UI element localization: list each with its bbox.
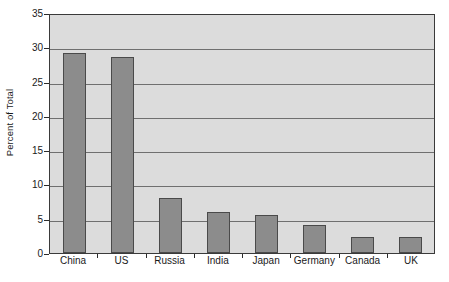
bar-slot <box>242 15 290 253</box>
x-axis-tick-mark <box>194 254 195 258</box>
y-axis-title: Percent of Total <box>0 0 20 245</box>
x-axis-tick-label: Russia <box>146 256 194 266</box>
bar-russia <box>159 198 182 253</box>
bar-japan <box>255 215 278 253</box>
y-axis-title-text: Percent of Total <box>5 89 16 156</box>
y-axis-tick-label: 15 <box>32 146 43 156</box>
x-axis-tick-mark <box>242 254 243 258</box>
y-axis-tick-mark <box>44 117 49 118</box>
x-axis-tick-label: India <box>194 256 242 266</box>
y-axis-tick-label: 25 <box>32 78 43 88</box>
x-axis-tick-mark <box>97 254 98 258</box>
bar-slot <box>386 15 434 253</box>
y-axis-tick-label: 20 <box>32 112 43 122</box>
bar-slot <box>338 15 386 253</box>
plot-area <box>49 14 435 254</box>
x-axis-tick-mark <box>290 254 291 258</box>
x-axis-tick-label: Germany <box>290 256 338 266</box>
bar-india <box>207 212 230 253</box>
x-axis-tick-mark <box>387 254 388 258</box>
x-axis-tick-mark <box>146 254 147 258</box>
bars-layer <box>50 15 434 253</box>
y-axis-tick-label: 0 <box>37 249 43 259</box>
y-axis-tick-mark <box>44 185 49 186</box>
y-axis-tick-label: 35 <box>32 9 43 19</box>
bar-canada <box>351 237 374 253</box>
bar-us <box>111 57 134 253</box>
x-axis-tick-label: China <box>49 256 97 266</box>
bar-germany <box>303 225 326 253</box>
x-axis-tick-label: Japan <box>242 256 290 266</box>
x-axis-tick-mark <box>339 254 340 258</box>
y-axis-tick-label: 10 <box>32 180 43 190</box>
y-axis-tick-mark <box>44 14 49 15</box>
bar-slot <box>194 15 242 253</box>
y-axis-tick-mark <box>44 254 49 255</box>
x-axis-tick-label: UK <box>387 256 435 266</box>
y-axis-tick-mark <box>44 48 49 49</box>
bar-chart-figure: Percent of Total 05101520253035 ChinaUSR… <box>0 0 449 282</box>
y-axis-tick-mark <box>44 151 49 152</box>
bar-uk <box>399 237 422 253</box>
y-axis-tick-mark <box>44 83 49 84</box>
y-axis-tick-label: 5 <box>37 215 43 225</box>
y-axis-tick-labels: 05101520253035 <box>20 14 43 254</box>
bar-slot <box>290 15 338 253</box>
y-axis-tick-mark <box>44 220 49 221</box>
bar-slot <box>50 15 98 253</box>
y-axis-tick-label: 30 <box>32 43 43 53</box>
bar-china <box>63 53 86 253</box>
bar-slot <box>98 15 146 253</box>
x-axis-tick-label: US <box>97 256 145 266</box>
x-axis-tick-label: Canada <box>339 256 387 266</box>
bar-slot <box>146 15 194 253</box>
